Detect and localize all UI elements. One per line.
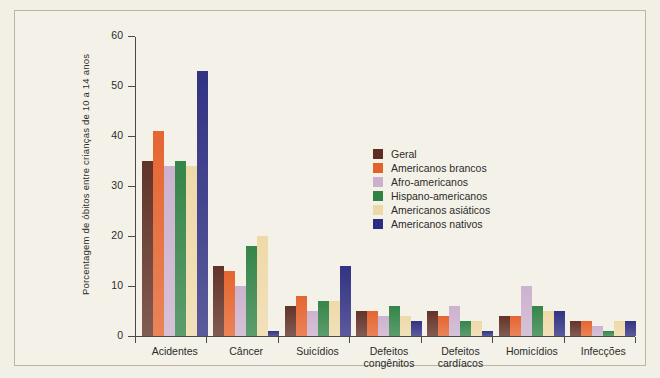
- bar: [367, 311, 378, 336]
- legend-swatch: [373, 163, 383, 173]
- bar-group-bars: [499, 36, 565, 336]
- x-axis-tick: [421, 337, 422, 343]
- legend-label: Americanos nativos: [391, 218, 483, 230]
- legend-item: Hispano-americanos: [373, 189, 490, 202]
- y-axis-tick-label: 30: [111, 179, 123, 191]
- x-axis-label-line: Infecções: [557, 345, 649, 357]
- bar-group-bars: [285, 36, 351, 336]
- bar: [581, 321, 592, 336]
- y-axis-tick: 60: [128, 36, 135, 37]
- x-axis-tick: [135, 337, 136, 343]
- bar: [246, 246, 257, 336]
- x-axis-label-line: cardíacos: [414, 357, 506, 369]
- y-axis-tick-label: 10: [111, 279, 123, 291]
- legend-item: Geral: [373, 147, 490, 160]
- bar: [482, 331, 493, 336]
- bar-group: [499, 36, 565, 336]
- bar: [318, 301, 329, 336]
- legend-label: Hispano-americanos: [391, 190, 487, 202]
- legend-item: Americanos nativos: [373, 217, 490, 230]
- y-axis-tick-label: 40: [111, 129, 123, 141]
- bar: [614, 321, 625, 336]
- bar: [438, 316, 449, 336]
- y-axis-label: Porcentagem de óbitos entre crianças de …: [80, 50, 91, 300]
- bar: [175, 161, 186, 336]
- legend: GeralAmericanos brancosAfro-americanosHi…: [373, 147, 490, 231]
- bar: [400, 316, 411, 336]
- bar-group: [142, 36, 208, 336]
- bar: [449, 306, 460, 336]
- legend-item: Afro-americanos: [373, 175, 490, 188]
- x-axis-tick: [492, 337, 493, 343]
- y-axis-tick: 20: [128, 236, 135, 237]
- bar: [164, 166, 175, 336]
- bar: [389, 306, 400, 336]
- bar: [307, 311, 318, 336]
- bar: [570, 321, 581, 336]
- bar: [142, 161, 153, 336]
- bar: [521, 286, 532, 336]
- x-axis-tick: [635, 337, 636, 343]
- x-axis-tick: [349, 337, 350, 343]
- legend-swatch: [373, 205, 383, 215]
- legend-label: Afro-americanos: [391, 176, 468, 188]
- bar: [285, 306, 296, 336]
- bar-group-bars: [142, 36, 208, 336]
- bar: [592, 326, 603, 336]
- bar: [625, 321, 636, 336]
- legend-label: Geral: [391, 148, 417, 160]
- bar: [532, 306, 543, 336]
- bar-group: [213, 36, 279, 336]
- bar: [603, 331, 614, 336]
- x-axis-tick: [564, 337, 565, 343]
- legend-label: Americanos brancos: [391, 162, 487, 174]
- legend-item: Americanos brancos: [373, 161, 490, 174]
- y-axis-tick-label: 50: [111, 79, 123, 91]
- bar: [186, 166, 197, 336]
- bar: [554, 311, 565, 336]
- bar: [378, 316, 389, 336]
- bar: [213, 266, 224, 336]
- bar-group: [570, 36, 636, 336]
- y-axis-tick: 50: [128, 86, 135, 87]
- legend-swatch: [373, 191, 383, 201]
- bar: [356, 311, 367, 336]
- bar: [235, 286, 246, 336]
- bar: [257, 236, 268, 336]
- y-axis-tick-label: 60: [111, 29, 123, 41]
- bar-group: [285, 36, 351, 336]
- x-axis-line: [135, 336, 635, 337]
- legend-item: Americanos asiáticos: [373, 203, 490, 216]
- bar-group-bars: [570, 36, 636, 336]
- bar: [499, 316, 510, 336]
- x-axis-tick: [278, 337, 279, 343]
- bar: [340, 266, 351, 336]
- bar: [224, 271, 235, 336]
- bar: [197, 71, 208, 336]
- bar: [427, 311, 438, 336]
- bar: [153, 131, 164, 336]
- legend-label: Americanos asiáticos: [391, 204, 490, 216]
- y-axis-tick-label: 20: [111, 229, 123, 241]
- bar-group-bars: [213, 36, 279, 336]
- y-axis-tick: 30: [128, 186, 135, 187]
- legend-swatch: [373, 149, 383, 159]
- bar: [296, 296, 307, 336]
- y-axis-line: [135, 37, 136, 337]
- x-axis-tick: [206, 337, 207, 343]
- bar: [510, 316, 521, 336]
- y-axis-tick: 40: [128, 136, 135, 137]
- bar: [411, 321, 422, 336]
- chart-frame: Porcentagem de óbitos entre crianças de …: [14, 10, 646, 366]
- legend-swatch: [373, 219, 383, 229]
- bar: [268, 331, 279, 336]
- bar: [543, 311, 554, 336]
- y-axis-tick: 10: [128, 286, 135, 287]
- bar: [329, 301, 340, 336]
- x-axis-label: Infecções: [557, 345, 649, 357]
- bar: [471, 321, 482, 336]
- figure-container: Porcentagem de óbitos entre crianças de …: [0, 0, 660, 378]
- y-axis-tick-label: 0: [117, 329, 123, 341]
- bar: [460, 321, 471, 336]
- legend-swatch: [373, 177, 383, 187]
